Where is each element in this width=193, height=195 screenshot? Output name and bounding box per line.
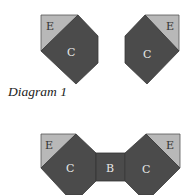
label-e: E: [45, 139, 53, 152]
label-e: E: [166, 139, 174, 152]
label-e: E: [46, 20, 54, 33]
label-c: C: [66, 162, 74, 175]
label-b: B: [106, 162, 114, 175]
diagram-caption: Diagram 1: [8, 84, 67, 100]
label-c: C: [67, 46, 75, 59]
label-c: C: [143, 48, 151, 61]
diagram2-left-piece: E C: [41, 134, 96, 195]
diagram2-middle-piece: B: [96, 153, 125, 181]
label-e: E: [166, 20, 174, 33]
label-c: C: [142, 163, 150, 176]
diagram2-right-piece: E C: [125, 134, 180, 195]
diagram1-left-piece: E C: [41, 15, 98, 84]
diagram1-right-piece: E C: [125, 15, 179, 84]
